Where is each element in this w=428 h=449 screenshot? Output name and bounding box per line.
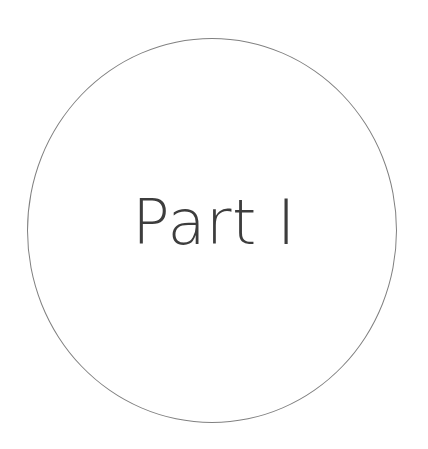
part-divider-page: Part I bbox=[0, 0, 428, 449]
decorative-circle bbox=[27, 38, 397, 423]
